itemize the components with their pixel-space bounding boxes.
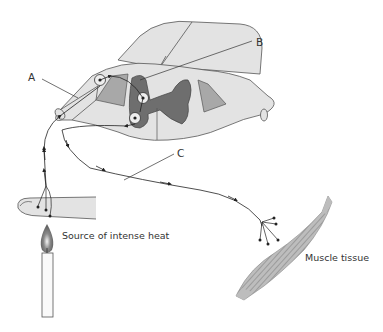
muscle	[236, 196, 332, 300]
label-c-leader	[124, 154, 174, 180]
label-a: A	[28, 71, 36, 83]
finger	[18, 186, 96, 219]
reflex-arc-diagram: A B C Source of intense heat Muscle tiss…	[0, 0, 383, 332]
muscle-caption: Muscle tissue	[305, 252, 369, 263]
heat-source-caption: Source of intense heat	[62, 230, 170, 241]
label-b: B	[256, 36, 263, 48]
label-c: C	[177, 147, 184, 159]
label-a-leader	[42, 79, 78, 98]
spinal-cord	[53, 21, 274, 140]
candle	[41, 224, 53, 317]
